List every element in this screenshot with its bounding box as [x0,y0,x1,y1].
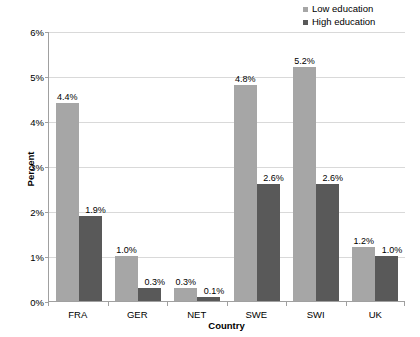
bar-groups: 4.4%1.9%1.0%0.3%0.3%0.1%4.8%2.6%5.2%2.6%… [49,32,405,301]
x-axis-tick-label: SWI [286,302,346,322]
bar: 1.9% [79,216,102,302]
bar-fill [293,67,316,301]
legend-item-low-education: Low education [303,4,375,14]
x-axis-tick-mark [48,302,49,306]
bar-group: 4.4%1.9% [49,32,108,301]
x-axis-tick-label: UK [346,302,406,322]
bar-fill [79,216,102,302]
bar: 1.0% [375,256,398,301]
square-swatch-icon [303,7,308,12]
bar-group: 4.8%2.6% [227,32,286,301]
bar: 0.3% [174,288,197,302]
bar-group: 1.2%1.0% [346,32,405,301]
bar-value-label: 0.3% [176,277,197,287]
bar-value-label: 1.2% [354,236,375,246]
y-axis-tick-label: 4% [30,117,44,128]
bar-group: 0.3%0.1% [168,32,227,301]
bar-value-label: 1.9% [85,205,106,215]
bar-value-label: 4.4% [57,92,78,102]
bar-fill [138,288,161,302]
bar: 4.8% [234,85,257,301]
y-axis-tick-label: 0% [30,297,44,308]
bar: 1.2% [352,247,375,301]
x-axis-tick-mark [108,302,109,306]
x-axis-tick-mark [404,302,405,306]
bar: 2.6% [257,184,280,301]
legend-label: High education [312,17,375,27]
x-axis-title: Country [48,320,405,331]
bar-value-label: 2.6% [263,173,284,183]
plot-area: 0%1%2%3%4%5%6% 4.4%1.9%1.0%0.3%0.3%0.1%4… [48,32,405,302]
bar-value-label: 5.2% [294,56,315,66]
bar-value-label: 1.0% [116,245,137,255]
bar-fill [197,297,220,302]
bar-fill [257,184,280,301]
bar-chart: Low education High education Percent 0%1… [0,0,420,337]
x-axis-tick-mark [286,302,287,306]
bar: 1.0% [115,256,138,301]
y-axis-tick-label: 5% [30,72,44,83]
bar-fill [174,288,197,302]
bar-value-label: 0.3% [144,277,165,287]
y-axis-tick-label: 2% [30,207,44,218]
bar-fill [352,247,375,301]
bar: 0.1% [197,297,220,302]
bar-fill [56,103,79,301]
x-axis-tick-mark [346,302,347,306]
square-swatch-icon [303,20,308,25]
bar-fill [115,256,138,301]
chart-legend: Low education High education [303,4,375,27]
x-axis-tick-mark [167,302,168,306]
bar-fill [316,184,339,301]
legend-item-high-education: High education [303,17,375,27]
bar-value-label: 2.6% [322,173,343,183]
x-axis-tick-label: SWE [227,302,287,322]
x-axis-tick-mark [227,302,228,306]
y-axis-tick-label: 6% [30,27,44,38]
bar-value-label: 4.8% [235,74,256,84]
y-axis-tick-label: 1% [30,252,44,263]
bar-group: 5.2%2.6% [286,32,345,301]
x-axis-tick-label: GER [108,302,168,322]
bar-value-label: 0.1% [204,286,225,296]
y-axis-tick-label: 3% [30,162,44,173]
legend-label: Low education [312,4,373,14]
x-axis-tick-label: FRA [48,302,108,322]
bar: 4.4% [56,103,79,301]
bar: 5.2% [293,67,316,301]
x-axis-ticks: FRAGERNETSWESWIUK [48,302,405,322]
bar-group: 1.0%0.3% [108,32,167,301]
x-axis-tick-label: NET [167,302,227,322]
bar-fill [375,256,398,301]
bar: 0.3% [138,288,161,302]
bar-value-label: 1.0% [382,245,403,255]
bar: 2.6% [316,184,339,301]
bar-fill [234,85,257,301]
